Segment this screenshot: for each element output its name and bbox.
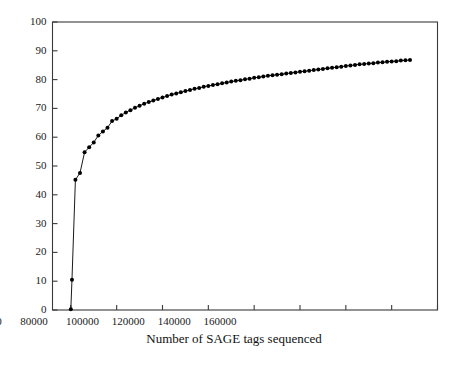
y-tick-label: 50 bbox=[36, 159, 47, 171]
y-tick-label: 30 bbox=[36, 217, 47, 229]
y-tick-label: 40 bbox=[36, 188, 47, 200]
series-markers bbox=[69, 58, 412, 311]
chart-figure: 0102030405060708090100 02000040000600008… bbox=[0, 0, 468, 366]
x-tick-label: 140000 bbox=[158, 315, 191, 327]
x-tick-label: 80000 bbox=[20, 315, 48, 327]
x-tick-label: 120000 bbox=[112, 315, 145, 327]
x-axis-ticks bbox=[71, 305, 438, 310]
y-tick-label: 20 bbox=[36, 245, 47, 257]
y-tick-label: 10 bbox=[36, 274, 47, 286]
x-tick-label: 60000 bbox=[0, 315, 2, 327]
y-tick-label: 100 bbox=[30, 15, 47, 27]
x-tick-label: 160000 bbox=[204, 315, 237, 327]
y-tick-label: 60 bbox=[36, 130, 47, 142]
x-tick-label: 100000 bbox=[66, 315, 99, 327]
x-axis-title: Number of SAGE tags sequenced bbox=[0, 331, 468, 347]
series-line bbox=[71, 60, 410, 309]
y-axis-ticks bbox=[53, 22, 58, 310]
y-tick-label: 70 bbox=[36, 101, 47, 113]
y-tick-label: 80 bbox=[36, 73, 47, 85]
saturation-curve-plot bbox=[0, 0, 468, 366]
y-tick-label: 90 bbox=[36, 44, 47, 56]
axis-frame bbox=[53, 22, 438, 310]
y-tick-label: 0 bbox=[41, 303, 47, 315]
